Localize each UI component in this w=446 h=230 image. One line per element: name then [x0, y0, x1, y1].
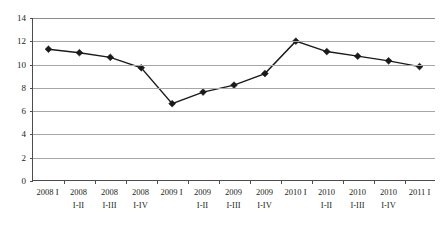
- y-axis-tickmark: [30, 18, 33, 19]
- y-axis-tick-label: 4: [0, 130, 26, 139]
- x-axis-category-line-1: 2011 I: [409, 186, 431, 199]
- x-axis-category-line-1: 2010: [380, 186, 397, 199]
- data-point-marker: [76, 49, 83, 56]
- x-axis-category-line-1: 2008 I: [37, 186, 59, 199]
- gridline: [33, 18, 435, 19]
- x-axis-category-line-2: I-IV: [256, 199, 273, 212]
- y-axis-tick-label: 10: [0, 60, 26, 69]
- y-axis-tickmark: [30, 111, 33, 112]
- y-axis-tick-label: 6: [0, 107, 26, 116]
- x-axis-tickmark: [250, 180, 251, 184]
- x-axis-category-label: 2010I-II: [318, 186, 335, 212]
- x-axis-category-line-1: 2008: [101, 186, 118, 199]
- x-axis-category-label: 2009I-III: [225, 186, 242, 212]
- x-axis-category-line-2: I-IV: [132, 199, 149, 212]
- gridline: [33, 88, 435, 89]
- y-axis-tickmark: [30, 134, 33, 135]
- x-axis-category-line-2: I-III: [101, 199, 118, 212]
- data-point-marker: [45, 46, 52, 53]
- x-axis-tickmark: [64, 180, 65, 184]
- x-axis-category-line-1: 2008: [70, 186, 87, 199]
- x-axis-tickmark: [157, 180, 158, 184]
- x-axis-category-label: 2009I-II: [194, 186, 211, 212]
- y-axis-tick-label: 8: [0, 83, 26, 92]
- x-axis-category-label: 2011 I: [409, 186, 431, 199]
- line-chart: 14121086420 2008 I2008I-II2008I-III2008I…: [0, 0, 446, 230]
- plot-area: [32, 18, 435, 181]
- y-axis-tick-label: 2: [0, 153, 26, 162]
- x-axis-category-label: 2010I-III: [349, 186, 366, 212]
- gridline: [33, 65, 435, 66]
- x-axis-category-line-2: I-IV: [380, 199, 397, 212]
- x-axis-category-line-2: I-II: [194, 199, 211, 212]
- x-axis-category-label: 2008I-II: [70, 186, 87, 212]
- x-axis-tickmark: [312, 180, 313, 184]
- gridline: [33, 134, 435, 135]
- x-axis-category-label: 2008 I: [37, 186, 59, 199]
- x-axis-category-line-1: 2009: [194, 186, 211, 199]
- data-point-marker: [107, 54, 114, 61]
- x-axis-category-label: 2010I-IV: [380, 186, 397, 212]
- gridline: [33, 158, 435, 159]
- x-axis-tickmark: [405, 180, 406, 184]
- y-axis-tickmark: [30, 88, 33, 89]
- gridline: [33, 41, 435, 42]
- x-axis-category-line-2: I-II: [70, 199, 87, 212]
- x-axis-category-label: 2009 I: [161, 186, 183, 199]
- x-axis-category-line-2: I-II: [318, 199, 335, 212]
- x-axis-tickmark: [95, 180, 96, 184]
- y-axis-tick-label: 0: [0, 177, 26, 186]
- x-axis-tickmark: [126, 180, 127, 184]
- data-point-marker: [354, 53, 361, 60]
- data-point-marker: [385, 57, 392, 64]
- series-line: [48, 41, 419, 103]
- x-axis-tickmark: [281, 180, 282, 184]
- y-axis-tick-labels: 14121086420: [0, 0, 26, 230]
- x-axis-category-line-1: 2010 I: [285, 186, 307, 199]
- y-axis-tickmark: [30, 65, 33, 66]
- x-axis-category-label: 2008I-III: [101, 186, 118, 212]
- x-axis-category-line-1: 2008: [132, 186, 149, 199]
- x-axis-category-label: 2008I-IV: [132, 186, 149, 212]
- x-axis-tick-labels: 2008 I2008I-II2008I-III2008I-IV2009 I200…: [32, 186, 435, 230]
- data-series: [33, 18, 435, 180]
- x-axis-category-line-1: 2010: [349, 186, 366, 199]
- y-axis-tickmark: [30, 181, 33, 182]
- series-markers: [45, 38, 423, 107]
- x-axis-tickmark: [343, 180, 344, 184]
- x-axis-category-label: 2010 I: [285, 186, 307, 199]
- data-point-marker: [323, 48, 330, 55]
- y-axis-tickmark: [30, 41, 33, 42]
- x-axis-category-line-1: 2009: [225, 186, 242, 199]
- x-axis-category-line-2: I-III: [349, 199, 366, 212]
- x-axis-tickmark: [219, 180, 220, 184]
- x-axis-category-line-1: 2009: [256, 186, 273, 199]
- data-point-marker: [200, 89, 207, 96]
- y-axis-tick-label: 12: [0, 37, 26, 46]
- x-axis-category-line-1: 2010: [318, 186, 335, 199]
- y-axis-tickmark: [30, 158, 33, 159]
- x-axis-category-line-1: 2009 I: [161, 186, 183, 199]
- x-axis-tickmark: [188, 180, 189, 184]
- x-axis-category-label: 2009I-IV: [256, 186, 273, 212]
- x-axis-category-line-2: I-III: [225, 199, 242, 212]
- y-axis-tick-label: 14: [0, 14, 26, 23]
- x-axis-tickmark: [374, 180, 375, 184]
- gridline: [33, 111, 435, 112]
